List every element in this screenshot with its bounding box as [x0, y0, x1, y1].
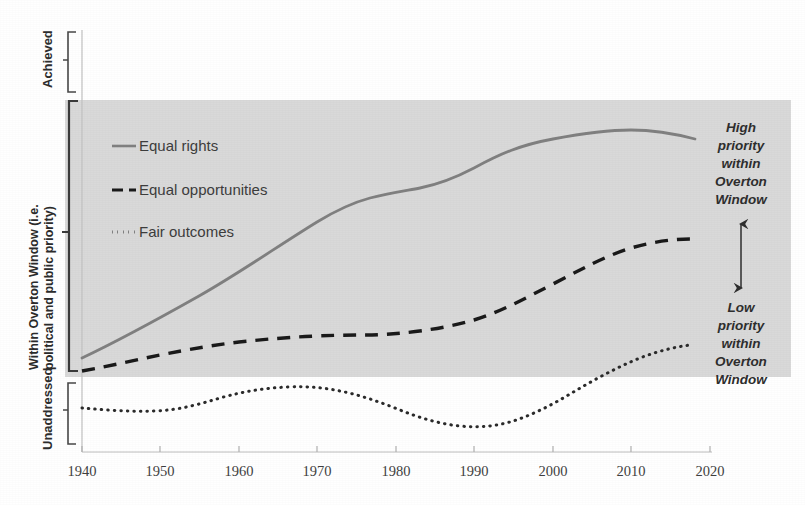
legend-label-equal-rights: Equal rights — [139, 137, 218, 154]
x-tick-label-2020: 2020 — [696, 463, 725, 479]
right-note-high-2: priority — [717, 138, 766, 153]
bracket-label-overton-line2: political and public priority) — [42, 206, 56, 370]
x-axis-ticks — [82, 446, 710, 452]
x-tick-label-1970: 1970 — [303, 463, 332, 479]
bracket-label-achieved: Achieved — [40, 30, 55, 88]
right-note-high-1: High — [726, 120, 756, 135]
right-note-low-5: Window — [715, 372, 768, 387]
legend-label-equal-opportunities: Equal opportunities — [139, 181, 267, 198]
right-note-low-4: Overton — [715, 354, 767, 369]
right-note-low-1: Low — [728, 300, 756, 315]
right-note-low-2: priority — [717, 318, 766, 333]
chart-canvas: 1940 1950 1960 1970 1980 1990 2000 2010 … — [0, 0, 805, 505]
x-tick-label-1980: 1980 — [382, 463, 411, 479]
x-tick-label-1990: 1990 — [460, 463, 489, 479]
right-note-low-3: within — [722, 336, 761, 351]
x-tick-label-2000: 2000 — [539, 463, 568, 479]
bracket-label-overton-line1: Within Overton Window (i.e. — [27, 204, 41, 370]
right-note-high-3: within — [722, 156, 761, 171]
overton-window-chart: 1940 1950 1960 1970 1980 1990 2000 2010 … — [0, 0, 805, 505]
legend-label-fair-outcomes: Fair outcomes — [139, 223, 234, 240]
right-note-high-4: Overton — [715, 174, 767, 189]
bracket-unaddressed — [63, 383, 76, 444]
x-tick-label-2010: 2010 — [617, 463, 646, 479]
x-tick-label-1950: 1950 — [146, 463, 175, 479]
x-tick-label-1960: 1960 — [225, 463, 254, 479]
bracket-achieved — [63, 32, 76, 92]
x-tick-label-1940: 1940 — [68, 463, 97, 479]
bracket-label-unaddressed: Unaddressed — [40, 368, 55, 450]
right-note-high-5: Window — [715, 192, 768, 207]
